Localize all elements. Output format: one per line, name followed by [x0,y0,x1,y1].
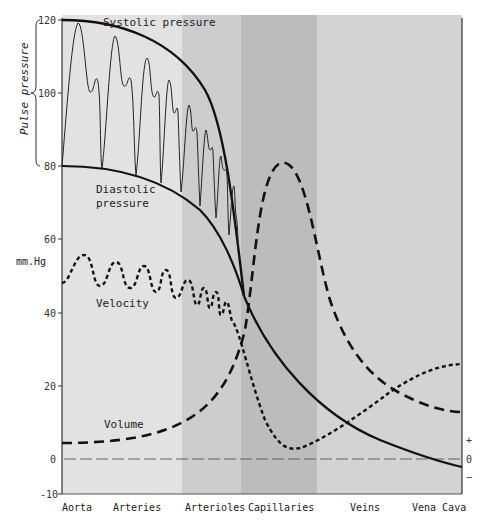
diastolic-label-2: pressure [96,197,149,210]
x-label-vena-cava: Vena Cava [412,502,466,513]
diastolic-label-1: Diastolic [96,183,156,196]
y-tick-80: 80 [44,161,56,172]
x-label-veins: Veins [350,502,380,513]
y-tick-0: 0 [50,454,56,465]
zero-mark: 0 [466,454,472,465]
x-label-arteries: Arteries [113,502,161,513]
y-tick-20: 20 [44,381,56,392]
minus-mark: − [466,472,472,483]
velocity-label: Velocity [96,297,149,310]
y-tick-neg10: -10 [40,489,58,500]
volume-label: Volume [104,418,144,431]
blood-pressure-chart: 120 100 80 60 40 20 0 -10 mm.Hg Pulse pr… [0,0,483,525]
y-tick-100: 100 [38,88,56,99]
y-unit-label: mm.Hg [16,256,46,267]
x-label-capillaries: Capillaries [248,502,314,513]
y-tick-60: 60 [44,234,56,245]
pulse-pressure-label: Pulse pressure [18,42,31,135]
y-tick-120: 120 [38,15,56,26]
plus-mark: + [466,435,472,446]
region-arterioles [182,15,241,494]
y-tick-40: 40 [44,308,56,319]
region-capillaries [241,15,317,494]
systolic-label: Systolic pressure [103,16,216,29]
x-label-aorta: Aorta [62,502,92,513]
x-label-arterioles: Arterioles [185,502,245,513]
region-veins [317,15,462,494]
